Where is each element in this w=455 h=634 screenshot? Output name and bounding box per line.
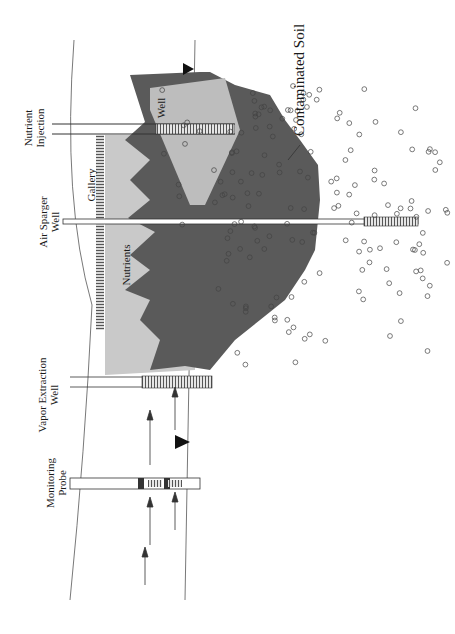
- bubble: [378, 246, 383, 251]
- bubble: [417, 242, 422, 247]
- bubble: [395, 211, 400, 216]
- bubble: [362, 87, 367, 92]
- bubble: [335, 116, 340, 121]
- label-well: Well: [155, 98, 167, 119]
- bubble: [302, 336, 307, 341]
- label-air-sparger: Air Sparger: [37, 196, 49, 248]
- label-monitoring: Monitoring: [44, 457, 56, 508]
- bubble: [420, 231, 425, 236]
- bubble: [273, 318, 278, 323]
- bubble: [336, 203, 341, 208]
- bubble: [317, 271, 322, 276]
- bubble: [323, 338, 328, 343]
- infiltration-gallery: [96, 135, 104, 330]
- bubble: [357, 249, 362, 254]
- bubble: [409, 199, 414, 204]
- label-vapor-extraction-well: Well: [48, 385, 60, 406]
- bubble: [334, 176, 339, 181]
- label-air-sparger-well: Well: [49, 212, 61, 233]
- bubble: [357, 132, 362, 137]
- bubble: [329, 179, 334, 184]
- bubble: [372, 168, 377, 173]
- label-vapor-extraction: Vapor Extraction: [36, 357, 48, 432]
- bubble: [413, 106, 418, 111]
- bubble: [445, 260, 450, 265]
- label-probe: Probe: [56, 470, 68, 496]
- nutrient-injection-well-screen: [156, 124, 234, 134]
- bubble: [337, 110, 342, 115]
- bubble: [368, 247, 373, 252]
- bubble: [410, 147, 415, 152]
- bubble: [373, 120, 378, 125]
- bubble: [357, 289, 362, 294]
- bubble: [421, 250, 426, 255]
- bubble: [408, 206, 413, 211]
- bubble: [285, 317, 290, 322]
- bubble: [420, 276, 425, 281]
- bubble: [445, 210, 450, 215]
- bubble: [235, 350, 240, 355]
- bubble: [343, 238, 348, 243]
- air-sparger-screen: [364, 217, 418, 226]
- label-nutrients: Nutrients: [120, 245, 132, 286]
- bubble: [291, 325, 296, 330]
- bubble: [335, 190, 340, 195]
- label-gallery: Gallery: [85, 168, 97, 201]
- bubble: [286, 330, 291, 335]
- bubble: [425, 349, 430, 354]
- bubble: [367, 260, 372, 265]
- bubble: [394, 240, 399, 245]
- bubble: [353, 183, 358, 188]
- bubble: [427, 283, 432, 288]
- bubble: [243, 362, 248, 367]
- bubble: [399, 130, 404, 135]
- bubble: [425, 294, 430, 299]
- bubble: [354, 211, 359, 216]
- bubble: [384, 267, 389, 272]
- vapor-extraction-screen: [142, 376, 212, 388]
- bubble: [433, 168, 438, 173]
- label-contaminated-soil: Contaminated Soil: [291, 24, 307, 136]
- bubble: [418, 268, 423, 273]
- bubble: [362, 239, 367, 244]
- bubble: [397, 291, 402, 296]
- bubble: [387, 281, 392, 286]
- bubble: [302, 279, 307, 284]
- bubble: [314, 97, 319, 102]
- bubble: [426, 209, 431, 214]
- bubble: [348, 148, 353, 153]
- bubble: [343, 158, 348, 163]
- bubble: [433, 150, 438, 155]
- bubble: [307, 92, 312, 97]
- bubble: [308, 149, 313, 154]
- bubble: [414, 269, 419, 274]
- bubble: [437, 160, 442, 165]
- bubble: [307, 332, 312, 337]
- bubble: [382, 181, 387, 186]
- remediation-diagram: Nutrient Injection Well Gallery Air Spar…: [0, 0, 455, 634]
- bubble: [386, 203, 391, 208]
- bubble: [317, 87, 322, 92]
- bubble: [398, 206, 403, 211]
- bubble: [399, 319, 404, 324]
- bubble: [372, 177, 377, 182]
- bubble: [347, 192, 352, 197]
- bubble: [443, 207, 448, 212]
- bubble: [360, 268, 365, 273]
- bubble: [347, 121, 352, 126]
- bubble: [361, 297, 366, 302]
- bubble: [293, 360, 298, 365]
- bubble: [388, 334, 393, 339]
- label-nutrient: Nutrient: [22, 110, 34, 147]
- bubble: [289, 295, 294, 300]
- label-injection: Injection: [34, 108, 46, 148]
